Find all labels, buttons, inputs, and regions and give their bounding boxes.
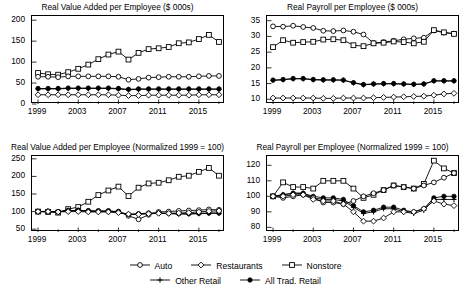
x-tick-label: 2003 [59, 235, 95, 243]
x-tick-label: 2015 [415, 235, 451, 243]
legend-label: Other Retail [175, 276, 221, 286]
panel-value-added-levels: Real Value Added per Employee ($ 000s) 0… [0, 2, 235, 140]
plus-icon [149, 275, 171, 285]
panel-payroll-levels: Real Payroll per Employee ($ 000s) 10152… [235, 2, 470, 140]
x-tick-label: 2007 [334, 107, 370, 115]
x-tick-label: 2003 [294, 235, 330, 243]
legend-marker [190, 260, 212, 272]
y-tick-label: 120 [235, 160, 260, 168]
series-nonstore [271, 28, 457, 50]
y-tick-label: 50 [0, 224, 25, 232]
x-tick-label: 2015 [180, 235, 216, 243]
legend-row: Other RetailAll Trad. Retail [0, 273, 470, 288]
y-tick-label: 250 [0, 154, 25, 162]
y-tick-label: 30 [235, 31, 260, 39]
plot-area [266, 155, 459, 231]
x-tick-label: 2015 [415, 107, 451, 115]
x-tick-label: 2003 [59, 107, 95, 115]
x-tick-label: 1999 [19, 107, 55, 115]
panel-title: Real Payroll per Employee ($ 000s) [235, 2, 470, 12]
series-nonstore [36, 32, 222, 77]
series-auto [36, 74, 222, 83]
legend-item-auto[interactable]: Auto [129, 260, 173, 272]
x-tick-label: 2011 [375, 107, 411, 115]
legend-item-nonstore[interactable]: Nonstore [281, 260, 342, 272]
y-tick-label: 80 [235, 222, 260, 230]
series-restaurants [35, 92, 222, 99]
series-auto [271, 171, 457, 207]
legend-row: AutoRestaurantsNonstore [0, 258, 470, 273]
plot-area [31, 155, 224, 231]
x-tick-label: 2011 [140, 235, 176, 243]
x-tick-label: 1999 [19, 235, 55, 243]
x-tick-label: 2003 [294, 107, 330, 115]
y-tick-label: 20 [235, 63, 260, 71]
figure-root: Real Value Added per Employee ($ 000s) 0… [0, 0, 470, 291]
y-tick-label: 25 [235, 47, 260, 55]
panel-value-added-normalized: Real Value Added per Employee (Normalize… [0, 142, 235, 258]
x-tick-label: 2007 [334, 235, 370, 243]
plot-area [31, 15, 224, 103]
open-circle-icon [129, 260, 151, 270]
open-diamond-icon [190, 260, 212, 270]
y-tick-label: 200 [0, 171, 25, 179]
y-tick-label: 100 [0, 207, 25, 215]
axis-ticks [267, 21, 454, 104]
x-tick-label: 2007 [99, 107, 135, 115]
legend-marker [281, 260, 303, 272]
legend-label: Nonstore [307, 261, 342, 271]
legend-label: Restaurants [216, 261, 262, 271]
y-tick-label: 150 [0, 189, 25, 197]
legend-label: Auto [155, 261, 173, 271]
series-layer [32, 16, 225, 104]
series-layer [267, 156, 460, 232]
panel-title: Real Payroll per Employee (Normalized 19… [235, 142, 470, 152]
y-tick-label: 90 [235, 207, 260, 215]
x-tick-label: 2011 [140, 107, 176, 115]
series-restaurants [270, 90, 457, 101]
x-tick-label: 2007 [99, 235, 135, 243]
y-tick-label: 100 [235, 191, 260, 199]
y-tick-label: 15 [235, 79, 260, 87]
y-tick-label: 100 [0, 57, 25, 65]
y-tick-label: 35 [235, 16, 260, 24]
legend-item-restaurants[interactable]: Restaurants [190, 260, 262, 272]
series-layer [32, 156, 225, 232]
legend-marker [129, 260, 151, 272]
open-square-icon [281, 260, 303, 270]
legend-marker [239, 275, 261, 287]
legend-marker [149, 275, 171, 287]
series-other-retail [270, 76, 456, 87]
plot-area [266, 15, 459, 103]
x-tick-label: 2015 [180, 107, 216, 115]
y-tick-label: 150 [0, 36, 25, 44]
y-tick-label: 200 [0, 15, 25, 23]
series-nonstore [36, 166, 222, 215]
x-tick-label: 1999 [254, 235, 290, 243]
axis-ticks [267, 165, 454, 232]
y-tick-label: 10 [235, 94, 260, 102]
y-tick-label: 50 [0, 78, 25, 86]
series-restaurants [35, 208, 222, 217]
x-tick-label: 2011 [375, 235, 411, 243]
y-tick-label: 110 [235, 176, 260, 184]
panel-title: Real Value Added per Employee ($ 000s) [0, 2, 235, 12]
filled-circle-icon [239, 275, 261, 285]
legend-label: All Trad. Retail [265, 276, 321, 286]
axis-ticks [32, 20, 219, 104]
axis-ticks [32, 159, 219, 232]
legend-item-all_trad_retail[interactable]: All Trad. Retail [239, 275, 321, 287]
series-layer [267, 16, 460, 104]
legend: AutoRestaurantsNonstore Other RetailAll … [0, 258, 470, 288]
x-tick-label: 1999 [254, 107, 290, 115]
panel-title: Real Value Added per Employee (Normalize… [0, 142, 235, 152]
legend-item-other_retail[interactable]: Other Retail [149, 275, 221, 287]
panel-payroll-normalized: Real Payroll per Employee (Normalized 19… [235, 142, 470, 258]
